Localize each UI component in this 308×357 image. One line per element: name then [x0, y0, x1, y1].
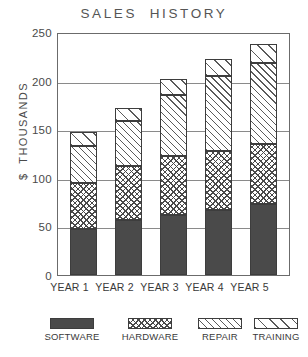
legend-label-hardware: HARDWARE: [112, 331, 188, 342]
bar-segment-software: [70, 229, 97, 275]
bar-segment-training: [70, 132, 97, 146]
bar-segment-repair: [115, 121, 142, 166]
legend-item-software[interactable]: SOFTWARE: [36, 318, 108, 342]
bar-segment-repair: [160, 95, 187, 156]
bar-segment-hardware: [250, 144, 277, 204]
legend-swatch-training: [254, 318, 298, 329]
y-tick-150: 150: [4, 124, 52, 136]
bar-stack-year-1: [70, 132, 97, 275]
bar-segment-software: [160, 215, 187, 275]
bar-stack-year-2: [115, 108, 142, 275]
bar-segment-hardware: [115, 166, 142, 220]
y-tick-200: 200: [4, 76, 52, 88]
bar-segment-software: [205, 210, 232, 275]
y-tick-250: 250: [4, 27, 52, 39]
bar-segment-software: [115, 220, 142, 275]
chart-legend: SOFTWARE HARDWARE REPAIR TRAINING: [0, 318, 308, 352]
chart-title: SALES HISTORY: [0, 6, 308, 21]
y-tick-100: 100: [4, 173, 52, 185]
bar-segment-repair: [250, 63, 277, 144]
bar-segment-hardware: [205, 151, 232, 210]
legend-item-repair[interactable]: REPAIR: [190, 318, 250, 342]
legend-label-software: SOFTWARE: [36, 331, 108, 342]
legend-label-repair: REPAIR: [190, 331, 250, 342]
bar-segment-software: [250, 204, 277, 275]
legend-swatch-repair: [198, 318, 242, 329]
legend-label-training: TRAINING: [245, 331, 307, 342]
legend-swatch-software: [50, 318, 94, 329]
y-tick-50: 50: [4, 221, 52, 233]
legend-item-hardware[interactable]: HARDWARE: [112, 318, 188, 342]
bar-segment-repair: [70, 146, 97, 183]
x-tick-year-5: YEAR 5: [220, 281, 280, 293]
bar-stack-year-4: [205, 59, 232, 275]
bar-stack-year-3: [160, 79, 187, 275]
y-axis-tick-labels: 250 200 150 100 50 0: [0, 33, 52, 276]
bar-segment-training: [250, 44, 277, 63]
bar-segment-training: [205, 59, 232, 76]
bar-segment-hardware: [70, 183, 97, 230]
bar-segment-repair: [205, 76, 232, 151]
plot-area: [57, 33, 290, 276]
bar-segment-hardware: [160, 156, 187, 214]
bar-segment-training: [115, 108, 142, 122]
legend-item-training[interactable]: TRAINING: [245, 318, 307, 342]
legend-swatch-hardware: [128, 318, 172, 329]
bar-stack-year-5: [250, 44, 277, 275]
bar-segment-training: [160, 79, 187, 96]
